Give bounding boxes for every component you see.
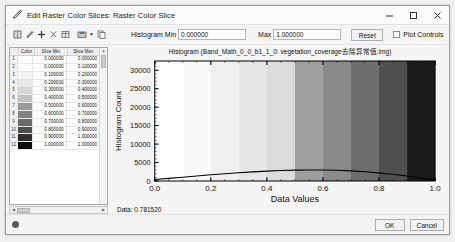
row-slice-max[interactable]: 1.000000 bbox=[67, 142, 100, 149]
row-slice-max[interactable]: 0.600000 bbox=[67, 103, 100, 110]
row-slice-max[interactable]: 0.400000 bbox=[67, 87, 100, 94]
row-slice-max[interactable]: 0.000000 bbox=[67, 56, 100, 63]
row-slice-max[interactable]: 0.800000 bbox=[67, 119, 100, 126]
table-horizontal-scrollbar[interactable]: ◀ ▶ bbox=[9, 206, 108, 214]
scroll-left-icon[interactable]: ◀ bbox=[10, 207, 17, 213]
y-tick-label: 20000 bbox=[130, 103, 151, 112]
toolbar: ▼ Histogram Min Max Reset Plot Controls bbox=[6, 25, 449, 45]
row-slice-min[interactable]: 0.900000 bbox=[33, 134, 67, 141]
row-color-swatch[interactable] bbox=[18, 111, 33, 118]
copy-icon[interactable] bbox=[97, 29, 107, 40]
histogram-range-controls: Histogram Min Max Reset Plot Controls bbox=[131, 29, 443, 41]
row-color-swatch[interactable] bbox=[18, 134, 33, 141]
row-color-swatch[interactable] bbox=[18, 87, 33, 94]
row-slice-min[interactable]: 0.600000 bbox=[33, 111, 67, 118]
color-slice-table-wrap: Color Slice Min Slice Max 10.0000000.000… bbox=[9, 47, 108, 205]
minimize-icon[interactable] bbox=[377, 6, 401, 24]
row-slice-min[interactable]: 0.700000 bbox=[33, 119, 67, 126]
plot-controls-label: Plot Controls bbox=[403, 31, 443, 38]
scissors-icon[interactable] bbox=[48, 29, 58, 40]
table-row[interactable]: 90.7000000.800000 bbox=[10, 119, 99, 127]
row-slice-max[interactable]: 0.200000 bbox=[67, 72, 100, 79]
row-color-swatch[interactable] bbox=[18, 95, 33, 102]
row-slice-max[interactable]: 1.000000 bbox=[67, 134, 100, 141]
row-slice-max[interactable]: 0.300000 bbox=[67, 80, 100, 87]
row-color-swatch[interactable] bbox=[18, 80, 33, 87]
row-slice-min[interactable]: 0.000000 bbox=[33, 56, 67, 63]
histogram-plot-panel: Histogram (Band_Math_0_0_b1_1_0: vegetat… bbox=[111, 47, 449, 214]
x-tick-label: 0.6 bbox=[317, 184, 329, 193]
y-tick-label: 25000 bbox=[130, 84, 151, 93]
table-row[interactable]: 30.1000000.200000 bbox=[10, 72, 99, 80]
row-index: 6 bbox=[10, 95, 18, 102]
row-slice-max[interactable]: 0.500000 bbox=[67, 95, 100, 102]
row-slice-min[interactable]: 0.300000 bbox=[33, 87, 67, 94]
x-tick-label: 0.2 bbox=[205, 184, 217, 193]
x-tick-label: 0.0 bbox=[149, 184, 161, 193]
row-slice-min[interactable]: 1.000000 bbox=[33, 142, 67, 149]
histogram-max-input[interactable] bbox=[273, 29, 341, 40]
row-slice-max[interactable]: 0.700000 bbox=[67, 111, 100, 118]
row-color-swatch[interactable] bbox=[18, 142, 33, 149]
row-color-swatch[interactable] bbox=[18, 119, 33, 126]
row-slice-min[interactable]: 0.500000 bbox=[33, 103, 67, 110]
plus-icon[interactable] bbox=[36, 29, 46, 40]
maximize-icon[interactable] bbox=[401, 6, 425, 24]
color-slice-band bbox=[351, 61, 379, 181]
table-row[interactable]: 50.3000000.400000 bbox=[10, 87, 99, 95]
plot-controls-checkbox-group[interactable]: Plot Controls bbox=[393, 31, 443, 38]
table-row[interactable]: 40.2000000.300000 bbox=[10, 80, 99, 88]
title-bar: Edit Raster Color Slices: Raster Color S… bbox=[6, 6, 449, 25]
row-index: 5 bbox=[10, 87, 18, 94]
row-index: 11 bbox=[10, 134, 18, 141]
row-color-swatch[interactable] bbox=[18, 103, 33, 110]
scroll-right-icon[interactable]: ▶ bbox=[100, 207, 107, 213]
grid-icon[interactable] bbox=[12, 29, 22, 40]
table-row[interactable]: 110.9000001.000000 bbox=[10, 134, 99, 142]
row-slice-min[interactable]: 0.100000 bbox=[33, 72, 67, 79]
row-slice-max[interactable]: 0.900000 bbox=[67, 127, 100, 134]
row-index: 1 bbox=[10, 56, 18, 63]
row-color-swatch[interactable] bbox=[18, 56, 33, 63]
row-slice-min[interactable]: 0.400000 bbox=[33, 95, 67, 102]
histogram-svg: 0500010000150002000025000300000.00.20.40… bbox=[111, 57, 449, 205]
save-icon[interactable] bbox=[77, 29, 87, 40]
row-slice-min[interactable]: 0.000000 bbox=[33, 64, 67, 71]
row-slice-max[interactable]: 0.100000 bbox=[67, 64, 100, 71]
y-axis-label: Histogram Count bbox=[114, 90, 123, 151]
table-row[interactable]: 60.4000000.500000 bbox=[10, 95, 99, 103]
cancel-button[interactable]: Cancel bbox=[410, 219, 444, 231]
row-color-swatch[interactable] bbox=[18, 127, 33, 134]
table-row[interactable]: 20.0000000.100000 bbox=[10, 64, 99, 72]
table-icon[interactable] bbox=[60, 29, 70, 40]
scroll-thumb-horizontal[interactable] bbox=[17, 208, 30, 213]
scroll-up-icon[interactable]: ▲ bbox=[102, 48, 106, 54]
table-row[interactable]: 100.8000000.900000 bbox=[10, 127, 99, 135]
column-header-slice-min: Slice Min bbox=[35, 48, 68, 55]
row-slice-min[interactable]: 0.200000 bbox=[33, 80, 67, 87]
plot-canvas[interactable]: 0500010000150002000025000300000.00.20.40… bbox=[111, 57, 449, 205]
histogram-min-label: Histogram Min bbox=[131, 31, 176, 38]
help-icon[interactable] bbox=[12, 221, 19, 228]
color-slice-band bbox=[267, 61, 295, 181]
row-color-swatch[interactable] bbox=[18, 72, 33, 79]
row-color-swatch[interactable] bbox=[18, 64, 33, 71]
histogram-min-input[interactable] bbox=[178, 29, 246, 40]
dropdown-caret-icon[interactable]: ▼ bbox=[89, 32, 94, 37]
eyedropper-icon[interactable] bbox=[24, 29, 34, 40]
table-row[interactable]: 70.5000000.600000 bbox=[10, 103, 99, 111]
row-slice-min[interactable]: 0.800000 bbox=[33, 127, 67, 134]
table-row[interactable]: 10.0000000.000000 bbox=[10, 56, 99, 64]
table-row[interactable]: 121.0000001.000000 bbox=[10, 142, 99, 150]
reset-button[interactable]: Reset bbox=[351, 29, 383, 41]
table-row[interactable]: 80.6000000.700000 bbox=[10, 111, 99, 119]
ok-button[interactable]: OK bbox=[375, 219, 405, 231]
scroll-thumb[interactable] bbox=[101, 55, 106, 68]
window-controls bbox=[377, 6, 449, 24]
close-icon[interactable] bbox=[425, 6, 449, 24]
color-slice-band bbox=[239, 61, 267, 181]
plot-controls-checkbox[interactable] bbox=[393, 31, 400, 38]
table-vertical-scrollbar[interactable]: ▲ bbox=[99, 48, 107, 204]
pencil-icon bbox=[11, 9, 25, 21]
column-header-color: Color bbox=[19, 48, 35, 55]
